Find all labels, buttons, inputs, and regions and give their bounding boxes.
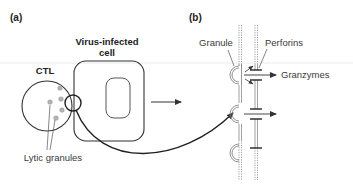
granule-fusion (230, 64, 242, 162)
lytic-granule (47, 99, 52, 104)
virus-infected-cell (74, 61, 144, 141)
perforin-arrow (245, 66, 253, 72)
ctl-membrane (239, 25, 242, 180)
synapse-highlight (65, 95, 81, 111)
nucleus (106, 78, 130, 118)
panel-b-label: (b) (189, 12, 202, 23)
zoom-arrow (76, 110, 233, 154)
leader-line (50, 120, 55, 150)
diagram-canvas: (a) Virus-infected cell CTL Lytic granul… (0, 0, 353, 184)
perforins-label: Perforins (265, 37, 303, 48)
panel-a-label: (a) (10, 12, 22, 23)
lytic-granule (58, 96, 63, 101)
granzymes-label: Granzymes (281, 69, 330, 80)
leader-line (47, 105, 50, 150)
target-membrane (255, 25, 258, 180)
ctl-label: CTL (36, 65, 55, 76)
lytic-granules-label: Lytic granules (24, 152, 83, 163)
granule-leader (228, 50, 234, 66)
cell-title-line2: cell (99, 47, 115, 58)
perforins-leader (259, 49, 267, 68)
diagram: (a) Virus-infected cell CTL Lytic granul… (0, 0, 353, 184)
lytic-granule (57, 85, 62, 90)
perforin-pores (250, 70, 262, 148)
granule-label: Granule (199, 37, 233, 48)
lytic-granule (59, 107, 64, 112)
lytic-granule (53, 115, 58, 120)
cell-title-line1: Virus-infected (75, 36, 138, 47)
ctl-cell (22, 81, 72, 131)
